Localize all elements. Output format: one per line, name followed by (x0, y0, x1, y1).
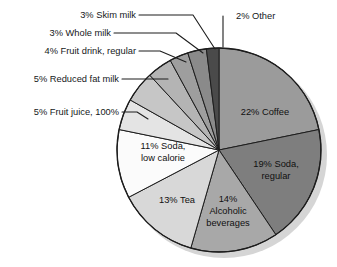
inner-label-coffee: 22% Coffee (241, 107, 289, 117)
callout-label-skim-milk: 3% Skim milk (80, 10, 136, 20)
pie-chart-canvas: 3% Skim milk 3% Whole milk 4% Fruit drin… (0, 0, 337, 267)
inner-label-alcoholic-line2: Alcoholic (209, 206, 247, 216)
callout-label-fruit-juice: 5% Fruit juice, 100% (34, 107, 119, 117)
inner-label-soda-low-line2: low calorie (141, 153, 185, 163)
callout-label-other: 2% Other (236, 11, 275, 21)
inner-label-soda-low-line1: 11% Soda, (141, 141, 186, 151)
callout-label-fruit-drink-regular: 4% Fruit drink, regular (45, 46, 136, 56)
leader-line-skim-milk (139, 15, 215, 49)
callout-label-whole-milk: 3% Whole milk (50, 28, 112, 38)
pie-chart-figure: 3% Skim milk 3% Whole milk 4% Fruit drin… (0, 0, 337, 267)
inner-label-soda-regular-line1: 19% Soda, (253, 159, 299, 169)
inner-label-soda-regular-line2: regular (262, 171, 291, 181)
inner-label-tea: 13% Tea (159, 195, 196, 205)
inner-label-alcoholic-line3: beverages (206, 218, 250, 228)
callout-label-reduced-fat-milk: 5% Reduced fat milk (34, 74, 120, 84)
inner-label-alcoholic-line1: 14% (219, 194, 238, 204)
